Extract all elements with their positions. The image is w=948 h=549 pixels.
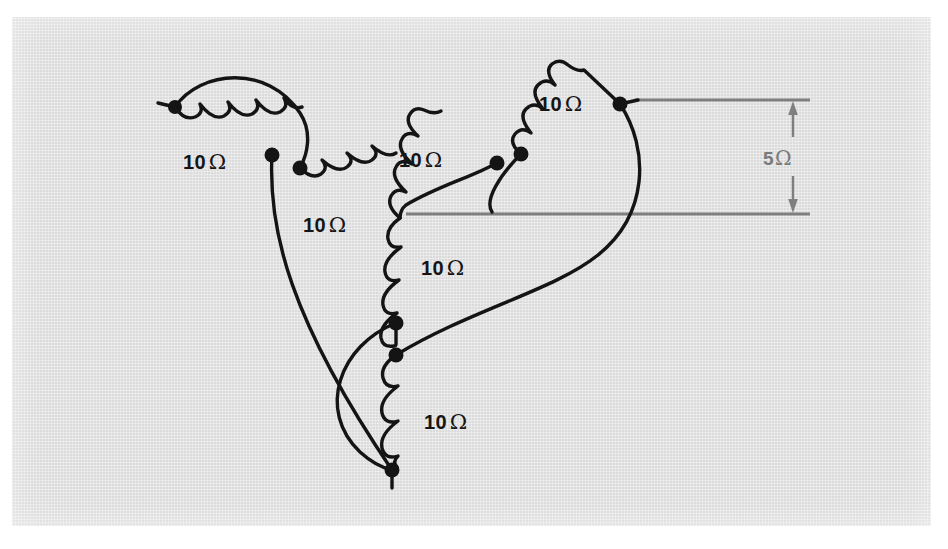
ohm-symbol: Ω	[447, 256, 465, 280]
dimension-label: 5Ω	[763, 148, 792, 168]
dimension-annotation	[406, 100, 810, 214]
resistor-value: 10	[424, 411, 447, 433]
ohm-symbol: Ω	[775, 146, 792, 170]
dimension-arrow-up-head	[788, 101, 798, 115]
resistor-label-center-vertical: 10Ω	[421, 258, 465, 279]
node-terminal-bottom	[385, 463, 400, 478]
dimension-value: 5	[763, 148, 774, 169]
resistor-coil-bottom	[382, 355, 398, 470]
figure-page: 10Ω 10Ω 10Ω 10Ω 10Ω 10Ω 5Ω	[0, 0, 948, 549]
circuit-wires	[158, 61, 640, 488]
resistor-coil-upper-left	[175, 98, 302, 118]
node-center-upper	[490, 156, 505, 171]
resistor-value: 10	[303, 214, 326, 236]
wire-arc-left-long	[272, 155, 392, 470]
node-center-lower	[389, 316, 404, 331]
resistor-label-upper-middle: 10Ω	[399, 150, 443, 171]
node-right-inner	[514, 147, 529, 162]
resistor-label-left-inner: 10Ω	[303, 215, 347, 236]
ohm-symbol: Ω	[565, 92, 583, 116]
node-ul-inner	[265, 148, 280, 163]
node-terminal-upper-left	[168, 100, 182, 114]
ohm-symbol: Ω	[209, 150, 227, 174]
resistor-value: 10	[399, 149, 422, 171]
wire-center-junction	[400, 163, 497, 218]
resistor-value: 10	[539, 93, 562, 115]
ohm-symbol: Ω	[450, 410, 468, 434]
resistor-label-upper-right: 10Ω	[539, 94, 583, 115]
resistor-label-bottom: 10Ω	[424, 412, 468, 433]
resistor-label-upper-left: 10Ω	[183, 152, 227, 173]
ohm-symbol: Ω	[329, 213, 347, 237]
circuit-diagram-svg	[0, 0, 948, 549]
resistor-coil-left-inner	[300, 146, 396, 176]
node-bottom-upper	[389, 348, 404, 363]
wire-arc-right-lobe	[396, 104, 640, 355]
resistor-value: 10	[421, 257, 444, 279]
resistor-value: 10	[183, 151, 206, 173]
node-terminal-right	[613, 97, 628, 112]
dimension-arrow-down-head	[788, 199, 798, 213]
node-ul-arc-end	[293, 161, 308, 176]
ohm-symbol: Ω	[425, 148, 443, 172]
